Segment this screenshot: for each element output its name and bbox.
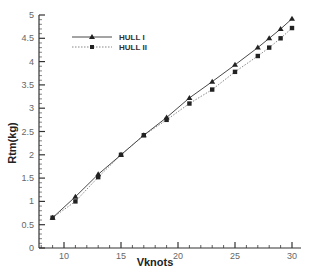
square-marker xyxy=(142,133,146,137)
square-marker xyxy=(96,175,100,179)
x-tick-label: 10 xyxy=(59,251,69,261)
x-tick-label: 25 xyxy=(230,251,240,261)
x-tick-label: 30 xyxy=(287,251,297,261)
square-marker xyxy=(164,118,168,122)
triangle-marker xyxy=(232,62,238,67)
square-marker xyxy=(50,216,54,220)
legend-square-icon xyxy=(90,45,94,49)
triangle-marker xyxy=(186,95,192,100)
y-tick-label: 3.5 xyxy=(21,80,34,90)
square-marker xyxy=(73,199,77,203)
triangle-marker xyxy=(209,79,215,84)
square-marker xyxy=(210,87,214,91)
x-tick-label: 15 xyxy=(116,251,126,261)
y-tick-label: 0 xyxy=(29,243,34,253)
triangle-marker xyxy=(289,16,295,21)
square-marker xyxy=(278,36,282,40)
square-marker xyxy=(187,101,191,105)
y-tick-label: 4.5 xyxy=(21,33,34,43)
legend-label-2: HULL II xyxy=(119,43,147,52)
square-marker xyxy=(233,70,237,74)
y-tick-label: 3 xyxy=(29,103,34,113)
square-marker xyxy=(119,153,123,157)
legend-triangle-icon xyxy=(89,34,95,39)
y-axis-title: Rtm(kg) xyxy=(6,122,18,164)
legend-label-1: HULL I xyxy=(119,33,145,42)
y-tick-label: 5 xyxy=(29,10,34,20)
square-marker xyxy=(256,54,260,58)
y-tick-label: 1.5 xyxy=(21,173,34,183)
chart: 101520253000.511.522.533.544.55 HULL IHU… xyxy=(0,0,310,280)
y-tick-label: 4 xyxy=(29,57,34,67)
square-marker xyxy=(290,26,294,30)
y-tick-label: 2 xyxy=(29,150,34,160)
square-marker xyxy=(267,45,271,49)
x-axis-title: Vknots xyxy=(137,256,174,268)
series-layer xyxy=(50,16,295,220)
x-tick-label: 20 xyxy=(173,251,183,261)
legend: HULL IHULL II xyxy=(72,33,147,52)
y-tick-label: 1 xyxy=(29,196,34,206)
y-tick-label: 0.5 xyxy=(21,220,34,230)
y-tick-label: 2.5 xyxy=(21,127,34,137)
